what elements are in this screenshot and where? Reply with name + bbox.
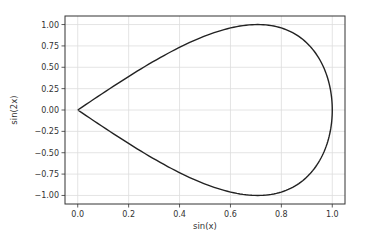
y-tick-label: 0.00: [41, 106, 59, 115]
x-tick-label: 0.8: [275, 210, 288, 219]
y-axis-label: sin(2x): [9, 95, 19, 124]
y-axis-ticks: 1.000.750.500.250.00−0.25−0.50−0.75−1.00: [34, 21, 65, 201]
y-tick-label: −1.00: [34, 191, 59, 200]
x-tick-label: 0.2: [122, 210, 135, 219]
y-tick-label: 1.00: [41, 21, 59, 30]
y-tick-label: 0.50: [41, 63, 59, 72]
y-tick-label: −0.75: [34, 170, 59, 179]
x-axis-label: sin(x): [193, 221, 217, 231]
x-tick-label: 0.0: [71, 210, 84, 219]
x-tick-label: 0.6: [224, 210, 237, 219]
y-tick-label: −0.50: [34, 149, 59, 158]
x-axis-ticks: 0.00.20.40.60.81.0: [71, 204, 338, 219]
y-tick-label: 0.25: [41, 85, 59, 94]
chart-figure: 0.00.20.40.60.81.0 1.000.750.500.250.00−…: [0, 0, 365, 243]
x-tick-label: 1.0: [326, 210, 339, 219]
y-tick-label: 0.75: [41, 42, 59, 51]
y-tick-label: −0.25: [34, 127, 59, 136]
x-tick-label: 0.4: [173, 210, 186, 219]
